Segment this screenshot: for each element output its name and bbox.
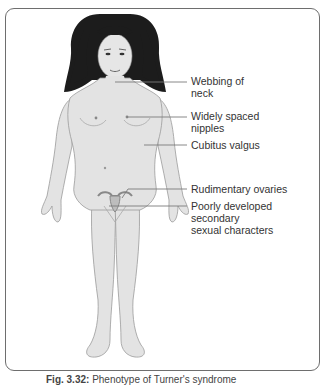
label-secondary-sexual-characters: Poorly developed secondary sexual charac…	[191, 200, 273, 236]
label-rudimentary-ovaries: Rudimentary ovaries	[191, 183, 287, 195]
label-webbing-of-neck: Webbing of neck	[191, 75, 244, 99]
torso	[68, 78, 162, 210]
figure-caption: Fig. 3.32: Phenotype of Turner's syndrom…	[46, 374, 236, 385]
label-widely-spaced-nipples: Widely spaced nipples	[191, 110, 259, 134]
label-cubitus-valgus: Cubitus valgus	[191, 139, 260, 151]
navel	[104, 167, 106, 169]
caption-prefix: Fig. 3.32:	[46, 374, 89, 385]
nipple-left	[95, 117, 98, 120]
caption-text: Phenotype of Turner's syndrome	[92, 374, 236, 385]
legs	[87, 200, 116, 357]
